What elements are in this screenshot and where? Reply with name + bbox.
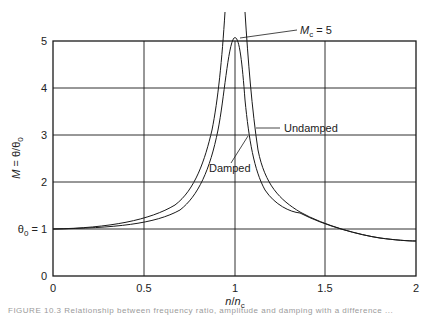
figure-caption: FIGURE 10.3 Relationship between frequen… [8,306,393,315]
mc-leader-line [240,30,297,38]
x-tick: 1 [232,282,238,294]
plot-frame [53,41,416,276]
undamped-label: Undamped [284,122,338,134]
y-tick: 4 [41,82,47,94]
undamped-curve-left [53,12,225,229]
theta0-tick-label: θ0 = 1 [18,223,47,238]
resonance-chart: 0 0.5 1 1.5 2 0 2 3 4 5 θ0 = 1 M = θ/θ0 … [0,0,432,317]
damped-curve [53,38,416,241]
x-tick: 0.5 [136,282,151,294]
y-tick: 5 [41,35,47,47]
y-axis-label: M = θ/θ0 [10,137,25,179]
curves [53,12,416,241]
grid-lines [53,41,416,276]
annotations: Mc = 5 Undamped Damped [209,24,338,174]
y-tick: 3 [41,129,47,141]
y-tick: 2 [41,176,47,188]
x-tick-labels: 0 0.5 1 1.5 2 [50,282,419,294]
damped-label: Damped [209,162,251,174]
y-tick: 0 [41,270,47,282]
mc-annotation: Mc = 5 [300,24,332,39]
x-tick: 1.5 [317,282,332,294]
damped-leader-line [231,136,248,163]
x-tick: 2 [413,282,419,294]
y-tick-labels: 0 2 3 4 5 θ0 = 1 [18,35,47,282]
x-tick: 0 [50,282,56,294]
